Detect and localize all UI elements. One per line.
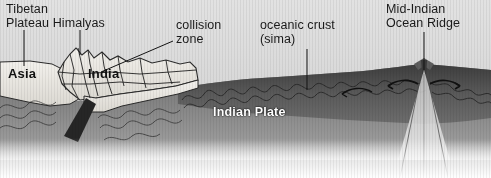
label-asia: Asia xyxy=(8,66,36,81)
label-oceanic-crust-sima: oceanic crust (sima) xyxy=(260,19,335,46)
label-mid-indian-ocean-ridge: Mid-Indian Ocean Ridge xyxy=(386,3,460,30)
tectonic-cross-section-figure: Tibetan Plateau Himalyas collision zone … xyxy=(0,0,491,178)
label-tibetan-plateau-himalayas: Tibetan Plateau Himalyas xyxy=(6,3,105,30)
label-indian-plate: Indian Plate xyxy=(213,105,286,119)
label-collision-zone: collision zone xyxy=(176,19,221,46)
bottom-fade xyxy=(0,138,491,178)
label-india: India xyxy=(88,66,119,81)
